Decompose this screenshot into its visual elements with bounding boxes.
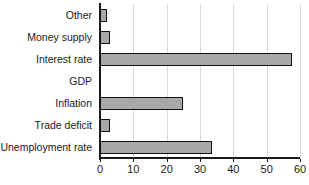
x-tick-label: 20 [152, 163, 182, 176]
category-label: Other [0, 9, 96, 21]
gridline [233, 4, 234, 158]
gridline [267, 4, 268, 158]
x-tick-mark [100, 159, 101, 162]
y-axis-line [99, 3, 101, 160]
category-label: Interest rate [0, 53, 96, 65]
plot-area [100, 4, 300, 158]
x-tick-mark [233, 159, 234, 162]
gridline [200, 4, 201, 158]
x-tick-mark [200, 159, 201, 162]
gridline [300, 4, 301, 158]
category-label: Inflation [0, 97, 96, 109]
x-tick-label: 50 [252, 163, 282, 176]
x-tick-label: 10 [118, 163, 148, 176]
category-label: Unemployment rate [0, 141, 96, 153]
category-label: Money supply [0, 31, 96, 43]
x-tick-label: 0 [85, 163, 115, 176]
gridline [133, 4, 134, 158]
bar-chart: OtherMoney supplyInterest rateGDPInflati… [0, 0, 309, 185]
x-tick-mark [167, 159, 168, 162]
bar [100, 9, 107, 22]
bar [100, 141, 212, 154]
bar [100, 119, 110, 132]
bar [100, 97, 183, 110]
category-label: Trade deficit [0, 119, 96, 131]
category-label: GDP [0, 75, 96, 87]
x-tick-mark [133, 159, 134, 162]
x-tick-label: 30 [185, 163, 215, 176]
gridline [167, 4, 168, 158]
x-tick-mark [300, 159, 301, 162]
bar [100, 31, 110, 44]
x-tick-mark [267, 159, 268, 162]
bar [100, 53, 292, 66]
x-tick-label: 60 [285, 163, 309, 176]
x-tick-label: 40 [218, 163, 248, 176]
